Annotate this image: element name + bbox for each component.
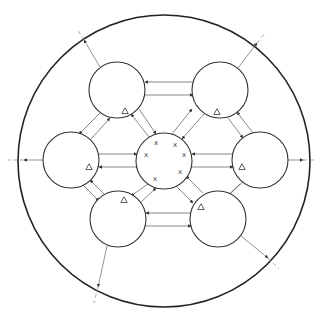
x-mark-icon: x [182, 151, 186, 159]
x-mark-icon: x [178, 168, 182, 176]
arrow-top-left-to-left [79, 113, 100, 134]
exit-arrow-bottom-left [98, 246, 107, 287]
nodes: xxxxxx [43, 62, 288, 247]
exit-arrow-bottom-right [241, 236, 268, 258]
arrow-center-to-bottom-left [131, 184, 148, 196]
node-bottom-right [190, 191, 246, 247]
node-left [43, 132, 99, 188]
exit-arrow-top-left [84, 40, 100, 67]
arrow-top-right-to-right [228, 118, 243, 138]
node-circle-bottom-right [190, 191, 246, 247]
arrow-center-to-bottom-right [176, 186, 193, 203]
node-top-left [89, 62, 145, 118]
exit-arrow-top-right [238, 43, 257, 68]
exit-dashed-extension-top-left [77, 29, 84, 40]
arrow-bottom-left-to-left [90, 180, 104, 194]
node-center: xxxxxx [136, 133, 192, 189]
x-mark-icon: x [154, 139, 158, 147]
node-circle-top-left [89, 62, 145, 118]
node-circle-center [136, 133, 192, 189]
arrow-right-to-top-right [237, 112, 253, 133]
arrow-center-to-top-left [131, 114, 149, 137]
arrow-bottom-left-to-center [141, 188, 156, 202]
node-bottom-left [90, 191, 146, 247]
arrow-bottom-right-to-center [186, 176, 203, 193]
arrow-top-left-to-center [139, 109, 156, 134]
node-right [232, 132, 288, 188]
arrow-left-to-bottom-left [83, 185, 99, 201]
node-circle-bottom-left [90, 191, 146, 247]
node-top-right [192, 62, 248, 118]
node-circle-left [43, 132, 99, 188]
arrow-left-to-top-left [91, 118, 110, 139]
reactor-core-diagram: xxxxxx [0, 0, 328, 318]
x-mark-icon: x [144, 151, 148, 159]
x-mark-icon: x [173, 141, 177, 149]
x-mark-icon: x [153, 175, 157, 183]
node-circle-right [232, 132, 288, 188]
node-circle-top-right [192, 62, 248, 118]
exit-dashed-extension-bottom-right [268, 258, 279, 269]
exit-dashed-extension-top-right [257, 32, 266, 43]
arrow-center-to-top-right [172, 109, 192, 134]
